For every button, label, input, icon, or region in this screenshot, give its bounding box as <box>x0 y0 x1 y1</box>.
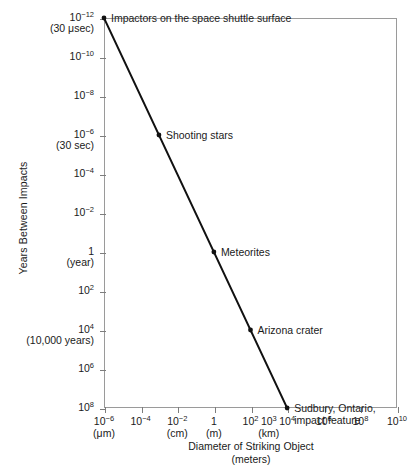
data-point-marker <box>248 328 253 333</box>
data-point-marker <box>285 406 290 411</box>
data-point-marker <box>102 16 107 21</box>
x-axis-title-main: Diameter of Striking Object <box>188 440 313 452</box>
series-line <box>104 18 287 408</box>
data-point-marker <box>211 250 216 255</box>
data-series-line <box>0 0 412 471</box>
chart-figure: Years Between Impacts 10−12(30 μsec)10−1… <box>0 0 412 471</box>
x-axis-title: Diameter of Striking Object (meters) <box>104 440 398 465</box>
data-point-marker <box>157 133 162 138</box>
x-axis-title-units: (meters) <box>104 453 398 466</box>
